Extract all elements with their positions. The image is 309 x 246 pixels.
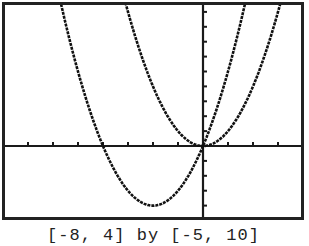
graph-plot: [2, 2, 309, 224]
graph-frame: [4, 4, 303, 219]
window-caption: [-8, 4] by [-5, 10]: [0, 226, 307, 246]
calculator-graph-screen: [2, 2, 304, 220]
